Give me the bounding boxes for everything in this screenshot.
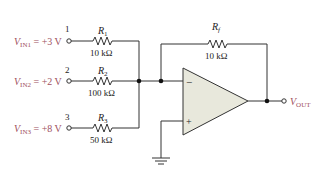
- inverting-sign: −: [186, 76, 192, 88]
- input-terminal-1: [67, 39, 71, 43]
- node-3-label: 3: [65, 112, 70, 122]
- vin2-label: VIN2 = +2 V: [14, 76, 63, 89]
- junction-dot: [159, 79, 164, 84]
- output-terminal: [282, 99, 286, 103]
- summing-amplifier-diagram: − + VIN1 = +3 V VIN2 = +2 V VIN3 = +8 V …: [0, 0, 330, 177]
- vin3-label: VIN3 = +8 V: [14, 123, 63, 136]
- opamp-triangle: [183, 68, 248, 135]
- circuit-svg: − + VIN1 = +3 V VIN2 = +2 V VIN3 = +8 V …: [0, 0, 330, 177]
- r3-label: R3: [97, 112, 108, 125]
- junction-dot: [265, 99, 270, 104]
- vin1-label: VIN1 = +3 V: [14, 36, 63, 49]
- rf-value: 10 kΩ: [205, 51, 228, 61]
- r2-value: 100 kΩ: [88, 88, 115, 98]
- junction-dot: [137, 79, 142, 84]
- resistor-rf-icon: [208, 40, 227, 48]
- input-terminal-2: [67, 79, 71, 83]
- r1-label: R1: [97, 25, 108, 38]
- r3-value: 50 kΩ: [90, 135, 113, 145]
- node-2-label: 2: [65, 65, 70, 75]
- resistor-r2-icon: [93, 77, 112, 85]
- node-1-label: 1: [65, 24, 70, 34]
- input-terminal-3: [67, 126, 71, 130]
- r1-value: 10 kΩ: [90, 48, 113, 58]
- vout-label: VOUT: [290, 96, 311, 109]
- resistor-r1-icon: [93, 37, 112, 45]
- resistor-r3-icon: [93, 124, 112, 132]
- rf-label: Rf: [211, 21, 221, 34]
- noninverting-sign: +: [186, 116, 192, 127]
- r2-label: R2: [97, 65, 108, 78]
